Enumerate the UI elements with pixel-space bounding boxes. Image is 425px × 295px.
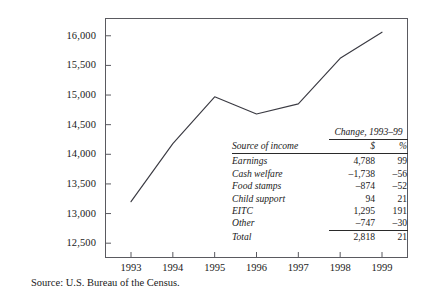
table-row: EITC1,295191: [232, 205, 408, 217]
source-caption: Source: U.S. Bureau of the Census.: [31, 276, 180, 289]
y-axis-tick-label: 14,500: [34, 119, 96, 130]
y-axis-tick-label: 14,000: [34, 148, 96, 159]
row-label: Food stamps: [232, 180, 329, 192]
x-axis-tick-label: 1998: [317, 262, 363, 274]
row-percent-value: –30: [377, 217, 408, 230]
x-axis-tick-label: 1997: [275, 262, 321, 274]
y-axis-tick-label: 13,000: [34, 208, 96, 219]
total-label: Total: [232, 230, 329, 244]
table-row: Other–747–30: [232, 217, 408, 230]
table-row: Child support9421: [232, 193, 408, 205]
row-dollar-value: 94: [329, 193, 377, 205]
y-axis-tick-label: 15,000: [34, 89, 96, 100]
table-group-header-row: Change, 1993–99: [232, 126, 408, 139]
inset-table-element: Change, 1993–99 Source of income $ % Ear…: [232, 126, 408, 244]
table-body: Earnings4,78899Cash welfare–1,738–56Food…: [232, 155, 408, 230]
row-label: Earnings: [232, 155, 329, 167]
row-label: Child support: [232, 193, 329, 205]
y-axis-tick-label: 13,500: [34, 178, 96, 189]
x-axis-tick-label: 1994: [150, 262, 196, 274]
column-header-percent: %: [377, 139, 408, 153]
table-column-header-row: Source of income $ %: [232, 139, 408, 153]
row-dollar-value: 1,295: [329, 205, 377, 217]
table-row: Earnings4,78899: [232, 155, 408, 167]
row-dollar-value: 4,788: [329, 155, 377, 167]
y-axis-tick-label: 15,500: [34, 59, 96, 70]
row-dollar-value: –1,738: [329, 168, 377, 180]
x-axis-tick-label: 1996: [234, 262, 280, 274]
figure-container: 12,50013,00013,50014,00014,50015,00015,5…: [0, 0, 425, 295]
column-header-source-of-income: Source of income: [232, 139, 329, 153]
table-row: Cash welfare–1,738–56: [232, 168, 408, 180]
row-percent-value: 21: [377, 193, 408, 205]
row-percent-value: –56: [377, 168, 408, 180]
group-header-spacer: [232, 126, 329, 139]
table-total-row: Total2,81821: [232, 230, 408, 244]
table-footer: Total2,81821: [232, 230, 408, 244]
row-label: Other: [232, 217, 329, 230]
table-row: Food stamps–874–52: [232, 180, 408, 192]
total-percent-value: 21: [377, 230, 408, 244]
row-label: Cash welfare: [232, 168, 329, 180]
x-axis-tick-label: 1993: [108, 262, 154, 274]
row-dollar-value: –747: [329, 217, 377, 230]
row-dollar-value: –874: [329, 180, 377, 192]
row-label: EITC: [232, 205, 329, 217]
y-axis-tick-label: 12,500: [34, 237, 96, 248]
row-percent-value: –52: [377, 180, 408, 192]
x-axis-tick-label: 1999: [359, 262, 405, 274]
total-dollar-value: 2,818: [329, 230, 377, 244]
column-header-dollar: $: [329, 139, 377, 153]
y-axis-tick-labels: 12,50013,00013,50014,00014,50015,00015,5…: [34, 0, 96, 295]
y-axis-tick-label: 16,000: [34, 30, 96, 41]
row-percent-value: 99: [377, 155, 408, 167]
change-summary-table: Change, 1993–99 Source of income $ % Ear…: [232, 126, 408, 244]
x-axis-tick-label: 1995: [192, 262, 238, 274]
row-percent-value: 191: [377, 205, 408, 217]
group-header-change: Change, 1993–99: [329, 126, 408, 139]
